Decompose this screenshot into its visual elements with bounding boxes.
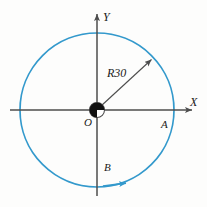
circle-diagram-figure: Y X O A B R30	[0, 0, 207, 207]
point-b-label: B	[104, 162, 111, 173]
point-a-label: A	[161, 119, 168, 130]
radius-label: R30	[107, 67, 126, 79]
x-axis-label: X	[190, 96, 197, 108]
y-axis-label: Y	[103, 11, 110, 23]
diagram-canvas	[0, 0, 207, 207]
origin-label: O	[84, 117, 92, 128]
